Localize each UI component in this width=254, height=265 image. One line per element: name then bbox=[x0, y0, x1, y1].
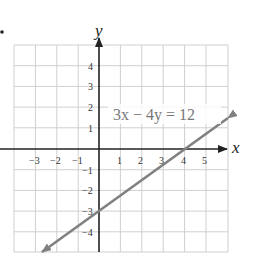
x-tick-labels: −3 −2 −1 1 2 3 4 5 bbox=[29, 155, 207, 166]
y-tick: 4 bbox=[88, 61, 93, 72]
equation-label: 3x − 4y = 12 bbox=[113, 106, 195, 124]
y-axis-label: y bbox=[93, 21, 103, 40]
x-tick: −3 bbox=[29, 155, 40, 166]
y-tick: −1 bbox=[82, 165, 93, 176]
x-tick: 5 bbox=[202, 155, 207, 166]
y-tick: 2 bbox=[88, 102, 93, 113]
y-tick: −4 bbox=[82, 227, 93, 238]
x-tick: 2 bbox=[138, 155, 143, 166]
x-tick: −2 bbox=[50, 155, 61, 166]
x-tick: 4 bbox=[181, 155, 186, 166]
x-axis-label: x bbox=[231, 138, 240, 157]
y-tick: 1 bbox=[88, 123, 93, 134]
bullet-dot bbox=[0, 30, 4, 34]
coordinate-plane: x y −3 −2 −1 1 2 3 4 5 4 3 2 1 −1 −2 −3 … bbox=[0, 0, 254, 265]
y-tick: −2 bbox=[82, 185, 93, 196]
x-tick: 1 bbox=[117, 155, 122, 166]
y-tick: 3 bbox=[88, 81, 93, 92]
